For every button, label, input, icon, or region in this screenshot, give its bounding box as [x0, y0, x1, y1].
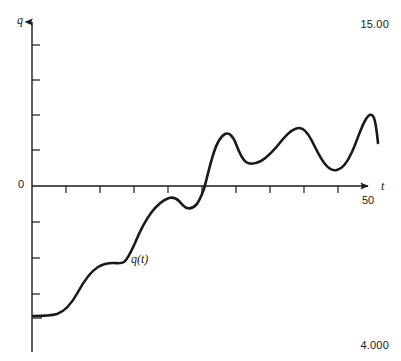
plot-canvas [0, 0, 401, 361]
chart-figure: 15.00 4.000 q t 0 50 q(t) [0, 0, 401, 361]
bottom-right-value-label: 4.000 [360, 339, 389, 351]
response-curve [33, 115, 378, 316]
y-axis-label: q [17, 13, 23, 28]
x-axis-end-tick-label: 50 [362, 194, 374, 206]
y-axis-zero-tick-label: 0 [18, 178, 24, 190]
y-axis-ticks [32, 45, 42, 318]
x-axis-label: t [381, 179, 384, 194]
top-right-value-label: 15.00 [360, 18, 389, 30]
curve-label: q(t) [131, 252, 148, 267]
